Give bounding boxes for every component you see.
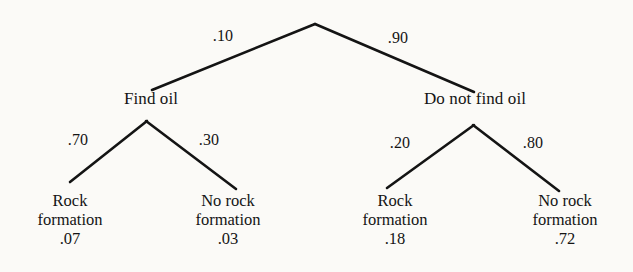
branch-label-find-oil-right: .30 — [181, 131, 237, 148]
leaf-node-2-line1: No rock — [166, 191, 290, 210]
branch-label-do-not-find-oil-right: .80 — [505, 134, 561, 151]
leaf-node-1-probability: .07 — [8, 229, 132, 248]
branch-label-find-oil-left: .70 — [50, 131, 106, 148]
leaf-node-4: No rock formation .72 — [503, 191, 627, 248]
leaf-node-3-line1: Rock — [333, 191, 457, 210]
leaf-node-4-probability: .72 — [503, 229, 627, 248]
node-do-not-find-oil: Do not find oil — [404, 89, 546, 108]
leaf-node-1-line1: Rock — [8, 191, 132, 210]
probability-tree-diagram: .10 .90 Find oil Do not find oil .70 .30… — [0, 0, 633, 272]
leaf-node-4-line1: No rock — [503, 191, 627, 210]
leaf-node-3: Rock formation .18 — [333, 191, 457, 248]
branch-label-root-left: .10 — [193, 27, 253, 44]
branch-label-root-right: .90 — [368, 29, 428, 46]
leaf-node-2-line2: formation — [166, 210, 290, 229]
leaf-node-4-line2: formation — [503, 210, 627, 229]
node-find-oil: Find oil — [90, 89, 212, 108]
branch-label-do-not-find-oil-left: .20 — [372, 134, 428, 151]
leaf-node-1-line2: formation — [8, 210, 132, 229]
leaf-node-3-probability: .18 — [333, 229, 457, 248]
leaf-node-3-line2: formation — [333, 210, 457, 229]
leaf-node-2-probability: .03 — [166, 229, 290, 248]
leaf-node-2: No rock formation .03 — [166, 191, 290, 248]
leaf-node-1: Rock formation .07 — [8, 191, 132, 248]
